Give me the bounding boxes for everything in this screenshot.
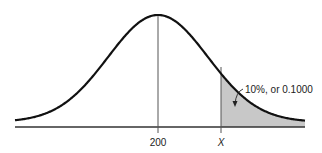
x-tick-label: X [217,137,225,148]
mean-tick-label: 200 [150,137,167,148]
bell-curve [15,15,305,121]
normal-distribution-chart: 10%, or 0.1000 200 X [0,0,322,153]
tail-annotation: 10%, or 0.1000 [245,84,313,95]
